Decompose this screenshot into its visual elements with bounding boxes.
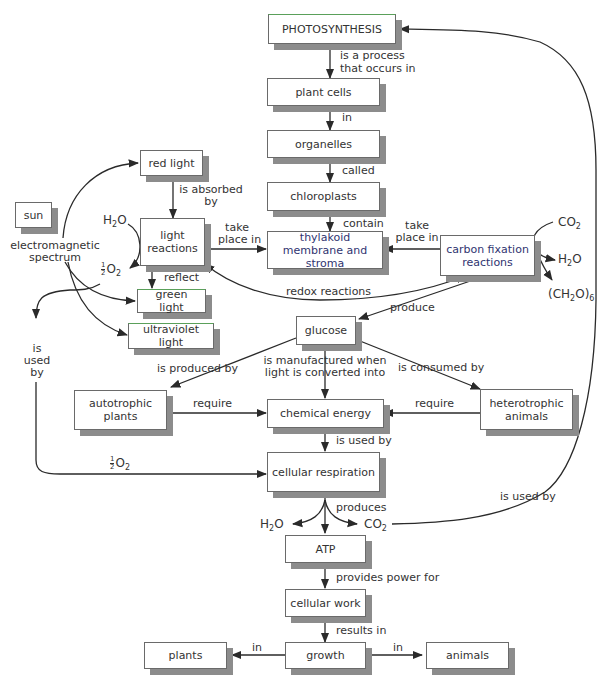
node-glucose[interactable]: glucose — [296, 316, 356, 345]
node-cellular-respiration[interactable]: cellular respiration — [267, 452, 380, 492]
node-growth[interactable]: growth — [285, 642, 366, 669]
label-light-is-converted-into: light is converted into — [262, 367, 388, 379]
node-red-light[interactable]: red light — [140, 150, 203, 176]
node-light-reactions[interactable]: light reactions — [140, 218, 205, 266]
label-redox-reactions: redox reactions — [286, 286, 371, 298]
label-take-place-in-right: take place in — [395, 220, 439, 244]
node-organelles[interactable]: organelles — [267, 130, 380, 158]
node-ultraviolet-light[interactable]: ultraviolet light — [128, 323, 214, 349]
label-place-in: place in — [395, 232, 439, 244]
label-that-occurs-in: that occurs in — [340, 63, 415, 75]
label-electromagnetic-spectrum: electromagnetic spectrum — [8, 240, 102, 264]
label-is-a-process: is a process — [340, 50, 405, 62]
label-is-consumed-by: is consumed by — [398, 362, 484, 374]
node-green-light[interactable]: green light — [137, 289, 206, 313]
label-contain: contain — [343, 218, 384, 230]
node-plant-cells[interactable]: plant cells — [267, 78, 380, 106]
node-sun[interactable]: sun — [15, 202, 52, 228]
chem-ch2o6: (CH2O)6 — [548, 288, 594, 305]
label-in-right: in — [393, 642, 403, 654]
label-results-in: results in — [336, 625, 386, 637]
chem-h2o-cf: H2O — [558, 253, 582, 270]
label-in: in — [342, 112, 352, 124]
label-provides-power-for: provides power for — [336, 572, 439, 584]
label-in-left: in — [252, 642, 262, 654]
node-thylakoid[interactable]: thylakoid membrane and stroma — [267, 231, 383, 269]
chem-co2-cf: CO2 — [558, 216, 581, 233]
node-photosynthesis[interactable]: PHOTOSYNTHESIS — [268, 14, 396, 44]
node-carbon-fixation[interactable]: carbon fixation reactions — [440, 235, 535, 276]
chem-h2o-resp: H2O — [260, 518, 284, 535]
node-cellular-work[interactable]: cellular work — [285, 589, 366, 617]
label-require-right: require — [415, 398, 454, 410]
label-by: by — [22, 367, 52, 379]
label-place-in: place in — [218, 234, 256, 246]
label-called: called — [342, 165, 375, 177]
label-is-used-by-mid: is used by — [336, 435, 392, 447]
label-by: by — [176, 196, 246, 208]
label-is-used-by-right: is used by — [500, 491, 556, 503]
label-reflect: reflect — [164, 272, 199, 284]
label-is-manufactured: is manufactured when light is converted … — [262, 355, 388, 379]
label-is-absorbed-by: is absorbed by — [176, 184, 246, 208]
label-produces: produces — [336, 502, 387, 514]
chem-h2o-light: H2O — [103, 214, 127, 231]
label-is-used-by-left: is used by — [22, 343, 52, 379]
node-atp[interactable]: ATP — [285, 535, 366, 563]
label-spectrum: spectrum — [8, 252, 102, 264]
label-is-produced-by: is produced by — [157, 363, 238, 375]
node-chloroplasts[interactable]: chloroplasts — [267, 182, 380, 211]
concept-map: PHOTOSYNTHESIS plant cells organelles ch… — [0, 0, 605, 690]
chem-half-o2-resp: 12O2 — [110, 456, 130, 474]
label-require-left: require — [193, 398, 232, 410]
chem-co2-resp: CO2 — [364, 518, 387, 535]
chem-half-o2-light: 12O2 — [101, 262, 121, 280]
label-take-place-in-left: take place in — [218, 222, 256, 246]
node-autotrophic-plants[interactable]: autotrophic plants — [74, 390, 167, 430]
label-produce: produce — [390, 302, 435, 314]
node-animals[interactable]: animals — [426, 642, 509, 669]
node-chemical-energy[interactable]: chemical energy — [267, 399, 384, 428]
node-plants[interactable]: plants — [144, 642, 227, 669]
node-heterotrophic-animals[interactable]: heterotrophic animals — [480, 389, 573, 430]
